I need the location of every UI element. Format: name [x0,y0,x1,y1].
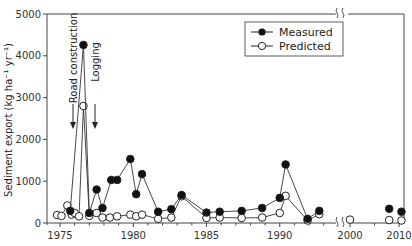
predicted-point [258,214,266,222]
y-tick-label: 2000 [16,134,41,145]
y-axis: 010002000300040005000 [16,9,47,229]
measured-point [316,207,324,215]
measured-point [80,41,88,49]
x-tick-label: 2010 [386,230,411,241]
measured-point [138,170,146,178]
arrow-down-icon [70,122,76,129]
sediment-chart: 010002000300040005000 197519801985199020… [0,0,412,246]
x-axis: 197519801985199020002010 [47,223,411,241]
measured-point [304,215,312,223]
measured-point [93,186,101,194]
x-tick-label: 1980 [121,230,146,241]
predicted-point [398,217,406,225]
y-tick-label: 0 [35,218,41,229]
measured-point [99,204,107,212]
predicted-point [346,216,354,224]
predicted-point [168,214,176,222]
y-axis-label: Sediment export (kg ha⁻¹ yr⁻¹) [3,43,14,197]
predicted-point [75,213,83,221]
x-tick-label: 1975 [47,230,72,241]
predicted-point [385,216,393,224]
annotation-road: Road construction [68,13,79,103]
measured-point [132,190,140,198]
measured-point [238,207,246,215]
y-tick-label: 3000 [16,92,41,103]
predicted-point [238,214,246,222]
y-tick-label: 4000 [16,50,41,61]
measured-point [178,191,186,199]
measured-point [154,208,162,216]
legend-predicted: Predicted [279,40,331,53]
measured-point [127,155,135,163]
legend-measured: Measured [279,26,333,39]
measured-marker-icon [258,28,265,35]
plot-frame [47,8,404,227]
measured-point [258,204,266,212]
predicted-marker-icon [258,42,265,49]
measured-point [86,209,94,217]
series-layer [53,41,405,224]
predicted-point [106,214,114,222]
measured-point [216,208,224,216]
predicted-point [154,215,162,223]
x-tick-label: 1985 [194,230,219,241]
measured-point [66,207,74,215]
measured-point [282,161,290,169]
measured-point [385,205,393,213]
legend: Measured Predicted [245,22,343,56]
measured-point [276,194,284,202]
y-tick-label: 5000 [16,9,41,20]
y-tick-label: 1000 [16,176,41,187]
arrow-down-icon [92,122,98,129]
predicted-point [138,211,146,219]
x-tick-label: 2000 [337,230,362,241]
predicted-point [276,209,284,217]
predicted-point [113,213,121,221]
measured-point [203,209,211,217]
annotation-logging: Logging [90,42,101,82]
predicted-point [58,212,66,220]
measured-point [398,208,406,216]
measured-point [113,176,121,184]
predicted-point [99,214,107,222]
x-tick-label: 1990 [267,230,292,241]
svg-text:Sediment export (kg ha⁻¹ yr⁻¹): Sediment export (kg ha⁻¹ yr⁻¹) [3,43,14,197]
measured-point [168,205,176,213]
